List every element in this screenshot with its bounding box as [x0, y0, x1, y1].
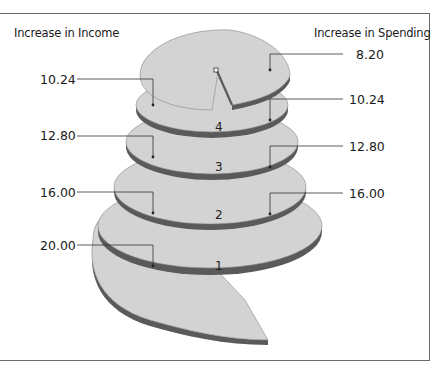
spending-value-tier-3: 12.80 [349, 139, 385, 154]
tier-4-label: 4 [215, 120, 223, 134]
tier-1-label: 1 [215, 259, 223, 273]
spending-value-tier-2: 16.00 [349, 186, 385, 201]
income-value-tier-2: 16.00 [40, 185, 76, 200]
income-value-tier-4: 10.24 [40, 72, 76, 87]
spending-value-top: 8.20 [356, 47, 384, 62]
tier-3-label: 3 [215, 160, 223, 174]
income-value-tier-1: 20.00 [40, 238, 76, 253]
spiral-chart: 4 3 2 1 10.24 12.80 16.00 20.00 8.20 10.… [0, 0, 444, 367]
spending-value-tier-4: 10.24 [349, 92, 385, 107]
tier-2-label: 2 [215, 208, 223, 222]
income-value-tier-3: 12.80 [40, 128, 76, 143]
